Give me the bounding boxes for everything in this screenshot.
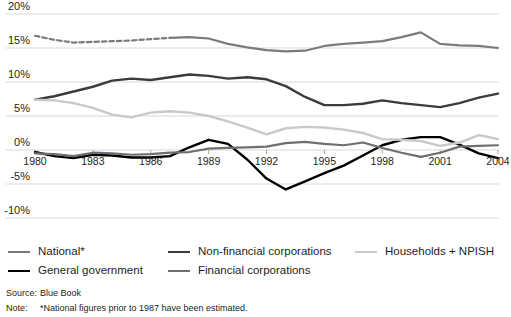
y-tick-label: 0% <box>14 136 30 148</box>
note-label: Note: <box>6 303 40 313</box>
legend-column-2: Non-financial corporationsFinancial corp… <box>168 242 332 280</box>
gridlines-group <box>6 14 499 218</box>
note-value: *National figures prior to 1987 have bee… <box>40 303 506 313</box>
legend-swatch-non-financial-corporations <box>168 251 190 253</box>
legend-swatch-financial-corporations <box>168 270 190 272</box>
y-tick-label: 5% <box>14 102 30 114</box>
legend-item-financial-corporations[interactable]: Financial corporations <box>168 261 332 280</box>
legend-swatch-national <box>8 251 30 253</box>
x-tick-label: 1980 <box>23 155 47 167</box>
chart-legend: National*General governmentNon-financial… <box>0 240 511 284</box>
y-tick-label: 20% <box>8 0 30 12</box>
x-tick-label: 1998 <box>371 155 395 167</box>
y-tick-label: 15% <box>8 34 30 46</box>
y-tick-label: -10% <box>4 204 30 216</box>
legend-swatch-general-government <box>8 270 30 272</box>
legend-label-financial-corporations: Financial corporations <box>198 261 311 280</box>
legend-label-non-financial-corporations: Non-financial corporations <box>198 242 332 261</box>
chart-footnotes: Source: Blue Book Note: *National figure… <box>6 288 506 317</box>
x-tick-label: 1995 <box>313 155 337 167</box>
x-tick-label: 1992 <box>255 155 279 167</box>
legend-item-general-government[interactable]: General government <box>8 261 143 280</box>
line-chart-svg: 20%15%10%5%0%-5%-10% 1980198319861989199… <box>0 0 511 240</box>
series-line-national <box>170 32 498 51</box>
y-tick-label: 10% <box>8 68 30 80</box>
x-axis-labels-group: 198019831986198919921995199820012004 <box>23 155 510 167</box>
x-tick-label: 2001 <box>428 155 452 167</box>
chart-plot-area: 20%15%10%5%0%-5%-10% 1980198319861989199… <box>0 0 511 240</box>
source-row: Source: Blue Book <box>6 288 506 298</box>
legend-item-national[interactable]: National* <box>8 242 143 261</box>
source-label: Source: <box>6 288 40 298</box>
legend-label-national: National* <box>38 242 85 261</box>
series-line-national-estimated <box>35 36 170 43</box>
legend-label-general-government: General government <box>38 261 143 280</box>
x-tick-label: 1989 <box>197 155 221 167</box>
x-tick-label: 2004 <box>486 155 510 167</box>
legend-column-1: National*General government <box>8 242 143 280</box>
series-line-non-financial-corporations <box>35 75 498 108</box>
chart-page: 20%15%10%5%0%-5%-10% 1980198319861989199… <box>0 0 511 317</box>
legend-item-households-npish[interactable]: Households + NPISH <box>355 242 494 261</box>
y-tick-label: -5% <box>10 170 30 182</box>
x-tick-label: 1983 <box>81 155 105 167</box>
note-row: Note: *National figures prior to 1987 ha… <box>6 303 506 313</box>
legend-item-non-financial-corporations[interactable]: Non-financial corporations <box>168 242 332 261</box>
legend-column-3: Households + NPISH <box>355 242 494 261</box>
x-tick-label: 1986 <box>139 155 163 167</box>
legend-label-households-npish: Households + NPISH <box>385 242 494 261</box>
source-value: Blue Book <box>40 288 506 298</box>
legend-swatch-households-npish <box>355 251 377 253</box>
